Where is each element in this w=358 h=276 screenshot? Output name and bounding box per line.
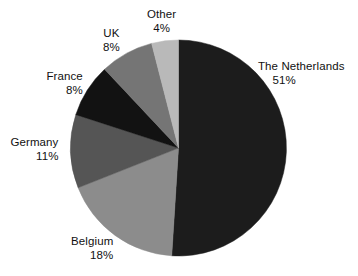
slice-label-name: France	[40, 70, 83, 84]
slice-label-value: 18%	[64, 249, 113, 263]
slice-label-value: 8%	[103, 41, 120, 55]
slice-label-name: Belgium	[64, 235, 113, 249]
slice-label-name: Other	[147, 8, 176, 22]
slice-label-value: 51%	[258, 74, 345, 88]
slice-label-value: 8%	[40, 84, 83, 98]
slice-label-value: 11%	[10, 150, 58, 164]
slice-label-belgium: Belgium 18%	[64, 235, 113, 262]
pie-chart: The Netherlands 51% Belgium 18% Germany …	[0, 0, 358, 276]
slice-label-name: Germany	[10, 136, 58, 150]
slice-label-france: France 8%	[40, 70, 83, 97]
slice-label-name: The Netherlands	[258, 60, 345, 74]
slice-label-value: 4%	[147, 22, 176, 36]
slice-label-uk: UK 8%	[103, 27, 120, 54]
slice-label-the-netherlands: The Netherlands 51%	[258, 60, 345, 87]
slice-label-other: Other 4%	[147, 8, 176, 35]
slice-label-name: UK	[103, 27, 120, 41]
slice-label-germany: Germany 11%	[10, 136, 58, 163]
